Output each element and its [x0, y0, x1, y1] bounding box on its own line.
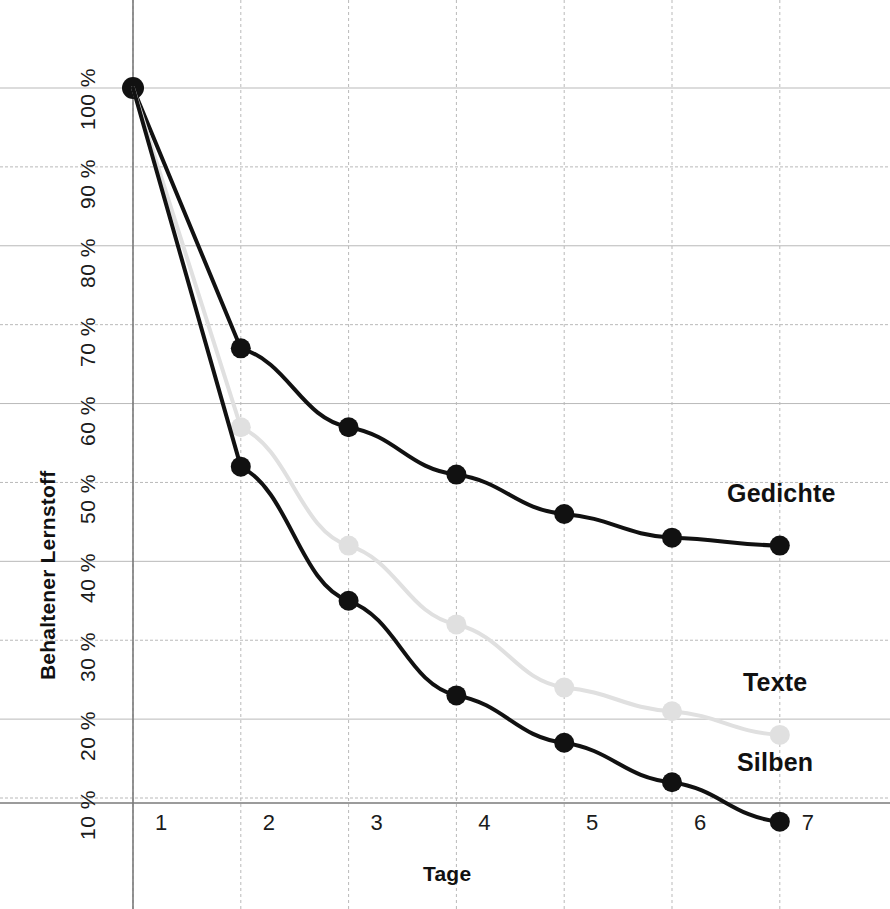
data-point-silben-day-3 [339, 591, 359, 611]
data-series-layer [122, 77, 790, 832]
data-point-gedichte-day-3 [339, 417, 359, 437]
y-tick-label-90: 90 % [76, 159, 100, 209]
y-tick-label-40: 40 % [76, 553, 100, 603]
data-point-silben-day-4 [446, 685, 466, 705]
series-label-texte: Texte [743, 668, 807, 697]
data-point-silben-day-2 [231, 457, 251, 477]
y-tick-label-20: 20 % [76, 711, 100, 761]
data-point-gedichte-day-7 [770, 536, 790, 556]
data-point-texte-day-5 [554, 678, 574, 698]
x-tick-label-5: 5 [572, 810, 612, 836]
data-point-texte-day-4 [446, 614, 466, 634]
y-tick-label-50: 50 % [76, 475, 100, 525]
data-point-texte-day-2 [231, 417, 251, 437]
data-point-silben-day-7 [770, 812, 790, 832]
y-tick-label-10: 10 % [76, 790, 100, 840]
data-point-gedichte-day-2 [231, 338, 251, 358]
forgetting-curve-chart: 100 %90 %80 %70 %60 %50 %40 %30 %20 %10 … [0, 0, 890, 909]
y-tick-label-80: 80 % [76, 238, 100, 288]
y-tick-label-30: 30 % [76, 632, 100, 682]
y-axis-title: Behaltener Lernstoff [36, 471, 60, 680]
x-axis-title: Tage [423, 862, 471, 886]
x-tick-label-1: 1 [141, 810, 181, 836]
x-tick-label-6: 6 [680, 810, 720, 836]
series-label-gedichte: Gedichte [727, 479, 836, 508]
y-tick-label-100: 100 % [76, 68, 100, 130]
x-tick-label-3: 3 [357, 810, 397, 836]
x-tick-label-2: 2 [249, 810, 289, 836]
vertical-gridlines [133, 0, 780, 909]
x-tick-label-4: 4 [464, 810, 504, 836]
data-point-texte-day-6 [662, 701, 682, 721]
series-label-silben: Silben [737, 748, 813, 777]
data-point-silben-day-6 [662, 772, 682, 792]
data-point-gedichte-day-5 [554, 504, 574, 524]
data-point-gedichte-day-4 [446, 465, 466, 485]
x-tick-label-7: 7 [788, 810, 828, 836]
y-tick-label-70: 70 % [76, 317, 100, 367]
y-tick-label-60: 60 % [76, 396, 100, 446]
data-point-gedichte-day-6 [662, 528, 682, 548]
data-point-texte-day-3 [339, 536, 359, 556]
data-point-texte-day-7 [770, 725, 790, 745]
data-point-silben-day-5 [554, 733, 574, 753]
